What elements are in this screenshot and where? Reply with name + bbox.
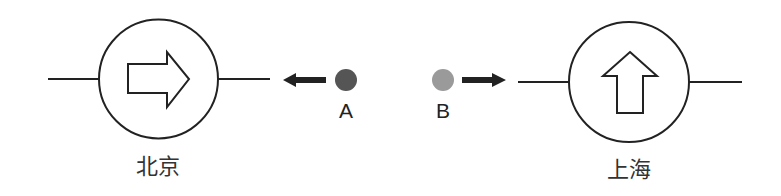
point-a-dot	[335, 69, 357, 91]
point-b-dot	[432, 69, 454, 91]
point-a-label: A	[331, 100, 361, 121]
point-a	[283, 69, 357, 91]
arrow-left-icon	[283, 73, 326, 87]
station-beijing	[48, 20, 270, 139]
point-b-label: B	[428, 100, 458, 121]
station-shanghai-label: 上海	[589, 159, 669, 181]
point-b	[432, 69, 506, 91]
station-shanghai	[518, 22, 742, 142]
station-beijing-label: 北京	[118, 156, 198, 178]
diagram: A B 北京 上海	[0, 0, 781, 196]
arrow-right-small-icon	[462, 73, 506, 87]
